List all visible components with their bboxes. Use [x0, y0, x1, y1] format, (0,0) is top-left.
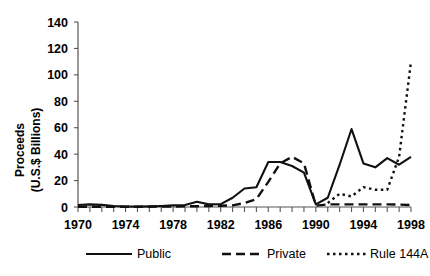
y-tick-label-120: 120 — [47, 42, 68, 56]
legend-item-public: Public — [86, 247, 171, 261]
chart-legend: PublicPrivateRule 144A — [86, 247, 429, 261]
y-axis-title: Proceeds (U.S.$ Billions) — [13, 108, 43, 193]
y-tick-label-0: 0 — [61, 201, 68, 215]
y-axis-title-line2: (U.S.$ Billions) — [29, 108, 43, 193]
y-axis-tick-labels: 020406080100120140 — [47, 16, 68, 215]
x-tick-label-1970: 1970 — [64, 218, 92, 232]
y-axis-title-line1: Proceeds — [13, 123, 27, 177]
data-series-group — [78, 62, 411, 207]
x-tick-label-1978: 1978 — [159, 218, 187, 232]
series-line-public — [78, 129, 411, 207]
x-tick-label-1994: 1994 — [350, 218, 378, 232]
legend-label: Private — [267, 247, 306, 261]
x-tick-label-1998: 1998 — [397, 218, 425, 232]
y-tick-label-40: 40 — [54, 148, 68, 162]
y-tick-label-140: 140 — [47, 16, 68, 30]
y-tick-label-100: 100 — [47, 68, 68, 82]
line-chart: Proceeds (U.S.$ Billions) 02040608010012… — [0, 0, 430, 276]
legend-item-rule-144a: Rule 144A — [327, 247, 429, 261]
chart-figure: Proceeds (U.S.$ Billions) 02040608010012… — [0, 0, 430, 276]
y-tick-label-80: 80 — [54, 95, 68, 109]
legend-label: Rule 144A — [370, 247, 429, 261]
x-tick-label-1986: 1986 — [254, 218, 282, 232]
x-axis-tick-labels: 19701974197819821986199019941998 — [64, 218, 425, 232]
x-tick-label-1982: 1982 — [207, 218, 235, 232]
series-line-private — [78, 157, 411, 207]
legend-item-private: Private — [222, 247, 306, 261]
x-tick-label-1990: 1990 — [302, 218, 330, 232]
y-tick-label-60: 60 — [54, 121, 68, 135]
y-tick-label-20: 20 — [54, 174, 68, 188]
legend-label: Public — [137, 247, 171, 261]
x-tick-label-1974: 1974 — [112, 218, 140, 232]
series-line-rule-144a — [328, 62, 411, 203]
